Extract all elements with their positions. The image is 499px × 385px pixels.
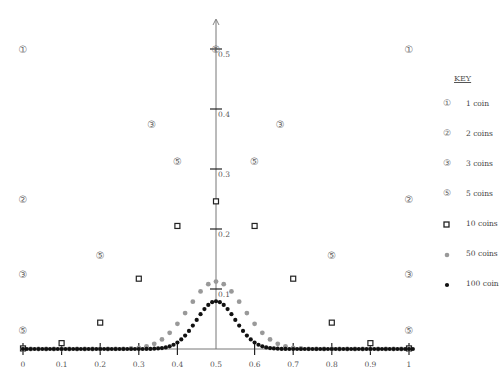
- svg-text:③: ③: [147, 119, 156, 130]
- legend-item-2-coins: ② 2 coins: [430, 128, 499, 142]
- circled-five-icon: ⑤: [440, 188, 454, 198]
- y-tick-label: 0.2: [218, 230, 230, 239]
- svg-text:③: ③: [276, 119, 285, 130]
- axes: 00.10.20.30.40.50.60.70.80.910.10.20.30.…: [21, 19, 412, 369]
- legend-item-1-coin: ① 1 coin: [430, 98, 499, 112]
- black-dot-icon: [440, 278, 454, 291]
- svg-text:⑤: ⑤: [327, 250, 336, 261]
- legend-item-50-coins: 50 coins: [430, 248, 499, 262]
- svg-text:①: ①: [405, 44, 414, 55]
- y-tick-label: 0.3: [218, 170, 230, 179]
- legend-title: KEY: [454, 74, 471, 83]
- svg-text:⑤: ⑤: [19, 325, 28, 336]
- x-tick-label: 0.2: [94, 360, 106, 369]
- svg-text:②: ②: [405, 194, 414, 205]
- svg-text:③: ③: [19, 269, 28, 280]
- legend-item-3-coins: ③ 3 coins: [430, 158, 499, 172]
- svg-text:①: ①: [19, 44, 28, 55]
- circled-three-icon: ③: [440, 158, 454, 168]
- x-tick-label: 0: [21, 360, 26, 369]
- svg-text:⑤: ⑤: [405, 325, 414, 336]
- x-tick-label: 0.5: [210, 360, 222, 369]
- y-tick-label: 0.1: [218, 290, 230, 299]
- series-100-coins: [21, 299, 415, 351]
- x-tick-label: 0.7: [287, 360, 299, 369]
- svg-text:②: ②: [212, 44, 221, 55]
- x-tick-label: 0.1: [56, 360, 68, 369]
- svg-text:②: ②: [19, 194, 28, 205]
- x-tick-label: 0.8: [326, 360, 338, 369]
- gray-dot-icon: [440, 248, 454, 261]
- x-tick-label: 0.9: [364, 360, 376, 369]
- binomial-chart: 00.10.20.30.40.50.60.70.80.910.10.20.30.…: [0, 0, 499, 385]
- x-tick-label: 1: [407, 360, 412, 369]
- legend-item-5-coins: ⑤ 5 coins: [430, 188, 499, 202]
- x-tick-label: 0.4: [171, 360, 183, 369]
- x-tick-label: 0.3: [133, 360, 145, 369]
- legend-item-10-coins: 10 coins: [430, 218, 499, 232]
- x-tick-label: 0.6: [249, 360, 261, 369]
- circled-one-icon: ①: [440, 98, 454, 108]
- y-tick-label: 0.4: [218, 110, 230, 119]
- square-marker-icon: [440, 218, 454, 231]
- legend-item-100-coins: 100 coins: [430, 278, 499, 292]
- svg-text:③: ③: [405, 269, 414, 280]
- svg-text:⑤: ⑤: [173, 156, 182, 167]
- svg-text:⑤: ⑤: [250, 156, 259, 167]
- svg-text:⑤: ⑤: [96, 250, 105, 261]
- circled-two-icon: ②: [440, 128, 454, 138]
